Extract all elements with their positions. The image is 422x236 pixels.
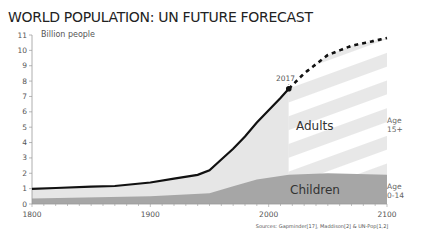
y-tick-label: 10 — [17, 46, 27, 55]
y-tick-label: 3 — [22, 153, 27, 162]
y-tick-label: 7 — [22, 92, 27, 101]
source-note: Sources: Gapminder[17], Maddison[2] & UN… — [256, 223, 389, 230]
age-adults-label-2: 15+ — [387, 125, 403, 134]
y-tick-label: 5 — [22, 123, 27, 132]
age-children-label-1: Age — [387, 182, 402, 191]
year-marker-label: 2017 — [276, 74, 295, 83]
x-tick-label: 2000 — [259, 210, 278, 219]
x-tick-label: 2100 — [377, 210, 396, 219]
y-tick-label: 1 — [22, 184, 27, 193]
y-tick-label: 6 — [22, 107, 27, 116]
y-axis-label: Billion people — [41, 30, 95, 39]
x-tick-label: 1900 — [141, 210, 160, 219]
age-children-label-2: 0-14 — [387, 191, 404, 200]
age-adults-label-1: Age — [387, 116, 402, 125]
y-tick-label: 2 — [22, 169, 27, 178]
y-tick-label: 4 — [22, 138, 27, 147]
y-tick-label: 9 — [22, 61, 27, 70]
y-tick-label: 8 — [22, 77, 27, 86]
y-tick-label: 0 — [22, 200, 27, 209]
y-tick-label: 11 — [17, 31, 27, 40]
x-tick-label: 1800 — [22, 210, 41, 219]
children-label: Children — [290, 183, 340, 197]
year-marker-point — [286, 86, 292, 92]
chart: 012345678910111800190020002100 Billion p… — [0, 0, 422, 236]
adults-label: Adults — [296, 119, 334, 133]
